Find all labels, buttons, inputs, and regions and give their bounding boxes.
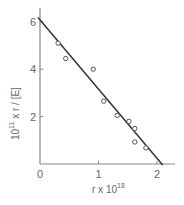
x-axis-label: r x 1018	[92, 182, 125, 195]
x-tick-label: 2	[154, 168, 160, 180]
ticks: 012246	[30, 16, 160, 180]
data-point	[91, 67, 95, 71]
scatter-chart: 012246 r x 1018 1011 x r / [E]	[0, 0, 184, 205]
y-axis-label: 1011 x r / [E]	[8, 87, 21, 140]
data-points	[56, 41, 148, 150]
data-point	[144, 146, 148, 150]
x-tick-label: 1	[95, 168, 101, 180]
y-tick-label: 4	[30, 63, 36, 75]
data-point	[64, 56, 68, 60]
regression-line	[38, 17, 163, 165]
data-point	[127, 119, 131, 123]
data-point	[133, 140, 137, 144]
axes	[40, 8, 175, 164]
x-tick-label: 0	[37, 168, 43, 180]
data-point	[102, 99, 106, 103]
data-point	[56, 41, 60, 45]
fit-line	[38, 17, 163, 165]
data-point	[133, 126, 137, 130]
y-tick-label: 2	[30, 111, 36, 123]
y-tick-label: 6	[30, 16, 36, 28]
data-point	[115, 113, 119, 117]
